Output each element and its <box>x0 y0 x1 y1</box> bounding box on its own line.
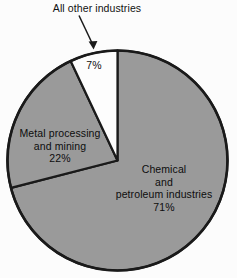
slice-value-metal: 22% <box>8 152 112 165</box>
slice-label-metal: Metal processing and mining 22% <box>8 127 112 165</box>
slice-value-chemical: 71% <box>104 201 224 214</box>
down-right-arrow-icon <box>79 16 97 50</box>
slice-value-other: 7% <box>72 59 116 72</box>
slice-label-chemical-line3: petroleum industries <box>104 188 224 201</box>
slice-label-chemical-line2: and <box>104 176 224 189</box>
slice-label-chemical-line1: Chemical <box>104 163 224 176</box>
slice-label-other: 7% <box>72 59 116 72</box>
slice-label-chemical: Chemical and petroleum industries 71% <box>104 163 224 213</box>
slice-label-metal-line2: and mining <box>8 140 112 153</box>
slice-label-metal-line1: Metal processing <box>8 127 112 140</box>
callout-label-all-other-industries: All other industries <box>27 2 167 14</box>
pie-chart-figure: All other industries 7% Metal processing… <box>0 0 237 278</box>
